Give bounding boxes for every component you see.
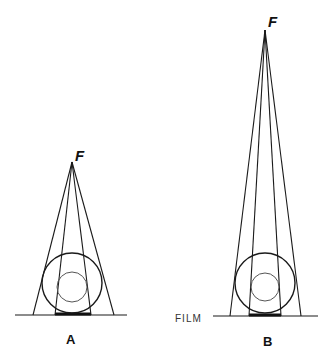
outer-ray-left-a xyxy=(33,162,72,315)
panel-a: F A xyxy=(15,147,127,347)
panel-label-b: B xyxy=(263,334,272,349)
inner-circle-b xyxy=(251,273,279,301)
outer-ray-left-b xyxy=(230,30,265,316)
focal-spot-label-b: F xyxy=(268,13,278,30)
outer-circle-a xyxy=(42,253,102,313)
focal-spot-label-a: F xyxy=(75,147,85,164)
outer-circle-b xyxy=(235,253,295,313)
panel-label-a: A xyxy=(66,332,76,347)
panel-b: F B xyxy=(213,13,318,349)
outer-ray-right-b xyxy=(265,30,301,316)
outer-ray-right-a xyxy=(72,162,114,315)
inner-circle-a xyxy=(57,272,87,302)
inner-ray-right-a xyxy=(72,162,91,315)
projection-geometry-figure: F A F B FILM xyxy=(0,0,334,360)
film-label: FILM xyxy=(175,313,202,324)
